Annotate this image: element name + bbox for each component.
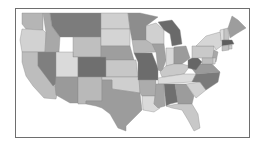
- state-ne: [101, 46, 134, 60]
- state-az: [55, 77, 78, 103]
- state-mt: [50, 13, 101, 37]
- state-wy: [73, 37, 101, 57]
- state-nd: [101, 13, 130, 29]
- state-pa: [192, 46, 214, 58]
- state-wa: [22, 13, 43, 30]
- state-md: [202, 58, 214, 64]
- state-in: [166, 48, 174, 66]
- state-ms: [154, 84, 165, 108]
- state-ks: [106, 60, 138, 77]
- state-ri: [229, 45, 232, 49]
- state-me: [228, 16, 246, 38]
- state-co: [78, 57, 106, 77]
- state-ar: [139, 80, 156, 96]
- us-choropleth-map: [0, 0, 261, 146]
- state-fl: [166, 104, 200, 131]
- state-or: [20, 29, 46, 52]
- state-de: [213, 58, 216, 64]
- state-nm: [78, 77, 102, 104]
- state-sd: [101, 29, 130, 46]
- state-oh: [174, 46, 190, 64]
- state-ct: [222, 45, 229, 51]
